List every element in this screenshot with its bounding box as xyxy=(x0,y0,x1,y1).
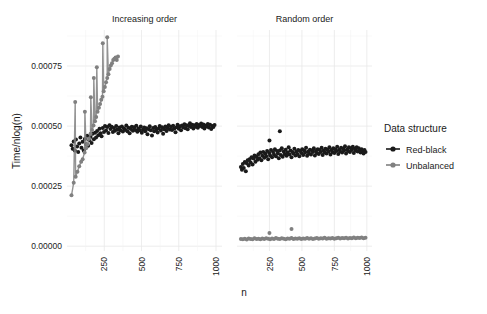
x-tick-label: 250 xyxy=(265,257,275,271)
data-point xyxy=(244,169,248,173)
data-point xyxy=(86,143,90,147)
data-point xyxy=(78,136,82,140)
data-point xyxy=(297,154,301,158)
data-point xyxy=(84,146,88,150)
data-point xyxy=(81,157,85,161)
data-point xyxy=(83,110,87,114)
legend-label: Red-black xyxy=(406,145,447,155)
data-point xyxy=(251,163,255,167)
data-point xyxy=(290,227,294,231)
data-point xyxy=(94,115,98,119)
x-tick-label: 500 xyxy=(137,257,147,271)
data-point xyxy=(92,76,96,80)
legend-title: Data structure xyxy=(384,123,447,134)
data-point xyxy=(266,157,270,161)
data-point xyxy=(213,123,217,127)
data-point xyxy=(278,129,282,133)
facet-strip-label-increasing: Increasing order xyxy=(112,14,177,24)
data-point xyxy=(156,131,160,135)
data-point xyxy=(242,166,246,170)
data-point xyxy=(106,131,110,135)
data-point xyxy=(277,156,281,160)
data-point xyxy=(77,164,81,168)
x-axis-title: n xyxy=(241,287,247,298)
data-point xyxy=(150,133,154,137)
data-point xyxy=(116,54,120,58)
data-point xyxy=(76,150,80,154)
data-point xyxy=(104,80,108,84)
data-point xyxy=(148,124,152,128)
data-point xyxy=(73,100,77,104)
data-point xyxy=(267,139,271,143)
scatter-plot-figure: Increasing orderRandom order0.000000.000… xyxy=(0,0,487,314)
y-tick-label: 0.00025 xyxy=(31,181,62,191)
y-tick-label: 0.00000 xyxy=(31,241,62,251)
data-point xyxy=(90,128,94,132)
data-point xyxy=(145,132,149,136)
data-point xyxy=(105,76,109,80)
data-point xyxy=(161,132,165,136)
y-tick-label: 0.00075 xyxy=(31,61,62,71)
data-point xyxy=(75,170,79,174)
data-point xyxy=(89,95,93,99)
data-point xyxy=(115,58,119,62)
data-point xyxy=(101,41,105,45)
data-point xyxy=(174,130,178,134)
legend-label: Unbalanced xyxy=(406,161,454,171)
x-tick-label: 750 xyxy=(330,257,340,271)
panel-background-random xyxy=(237,30,372,251)
legend-key-unbalanced[interactable] xyxy=(385,158,401,172)
x-tick-label: 250 xyxy=(99,257,109,271)
x-tick-label: 1000 xyxy=(211,257,221,276)
x-tick-label: 1000 xyxy=(362,257,372,276)
data-point xyxy=(128,131,132,135)
legend-key-point xyxy=(390,146,395,151)
data-point xyxy=(95,65,99,69)
data-point xyxy=(93,119,97,123)
data-point xyxy=(100,95,104,99)
data-point xyxy=(69,193,73,197)
data-point xyxy=(98,102,102,106)
data-point xyxy=(364,236,368,240)
data-point xyxy=(92,124,96,128)
x-tick-label: 500 xyxy=(297,257,307,271)
data-point xyxy=(304,146,308,150)
y-axis-title: Time/nlog(n) xyxy=(11,113,22,169)
facet-strip-label-random: Random order xyxy=(276,14,334,24)
data-point xyxy=(103,85,107,89)
data-point xyxy=(102,89,106,93)
data-point xyxy=(77,141,81,145)
data-point xyxy=(89,132,93,136)
legend-key-red-black[interactable] xyxy=(385,142,401,156)
data-point xyxy=(96,110,100,114)
data-point xyxy=(83,151,87,155)
legend-key-point xyxy=(390,162,395,167)
y-tick-label: 0.00050 xyxy=(31,121,62,131)
data-point xyxy=(87,137,91,141)
data-point xyxy=(287,145,291,149)
data-point xyxy=(106,72,110,76)
data-point xyxy=(97,106,101,110)
data-point xyxy=(90,141,94,145)
data-point xyxy=(100,134,104,138)
data-point xyxy=(290,155,294,159)
data-point xyxy=(105,35,109,39)
data-point xyxy=(364,150,368,154)
data-point xyxy=(72,181,76,185)
x-tick-label: 750 xyxy=(174,257,184,271)
data-point xyxy=(74,175,78,179)
data-point xyxy=(280,146,284,150)
data-point xyxy=(267,231,271,235)
